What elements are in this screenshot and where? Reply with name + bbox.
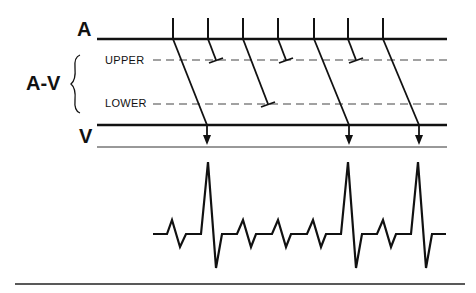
ventricle-label: V (79, 125, 92, 148)
upper-label: UPPER (105, 54, 144, 66)
atrial-impulses (173, 18, 383, 39)
ladder-diagram (0, 0, 476, 293)
arrowheads (203, 135, 423, 145)
conduction-paths (173, 39, 419, 142)
ecg-trace (153, 162, 446, 268)
lower-label: LOWER (105, 97, 147, 109)
av-brace (71, 55, 80, 113)
atrium-label: A (77, 18, 91, 41)
av-label: A-V (26, 72, 60, 95)
